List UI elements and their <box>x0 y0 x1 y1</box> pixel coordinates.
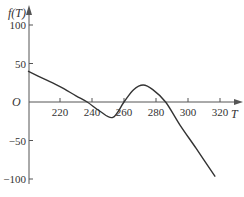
y-tick-label: −100 <box>3 173 26 185</box>
x-tick-label: 240 <box>84 106 101 118</box>
line-chart: 22024026028030032010050−50−100 f(T) T O <box>0 0 244 197</box>
x-axis-label: T <box>231 107 239 121</box>
x-tick-label: 280 <box>148 106 165 118</box>
y-tick-label: 50 <box>15 58 27 70</box>
axes <box>26 5 243 184</box>
y-tick-label: −50 <box>9 135 27 147</box>
x-axis-arrow-icon <box>234 99 243 105</box>
x-tick-label: 220 <box>52 106 69 118</box>
y-axis-label: f(T) <box>8 6 26 20</box>
chart-container: 22024026028030032010050−50−100 f(T) T O <box>0 0 244 197</box>
y-axis-arrow-icon <box>26 5 32 15</box>
x-tick-label: 320 <box>212 106 229 118</box>
origin-label: O <box>12 95 21 109</box>
y-tick-label: 100 <box>10 19 27 31</box>
x-tick-label: 300 <box>180 106 197 118</box>
series-line-f-T <box>28 71 215 176</box>
